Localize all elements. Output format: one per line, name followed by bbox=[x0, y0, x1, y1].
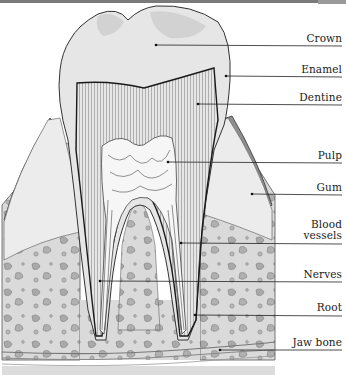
label-pulp: Pulp bbox=[318, 150, 342, 161]
label-vessels: vessels bbox=[303, 230, 342, 241]
label-dentine: Dentine bbox=[299, 92, 342, 103]
label-blood-vessels: Blood vessels bbox=[303, 219, 342, 241]
label-crown: Crown bbox=[306, 33, 342, 44]
label-jaw-bone: Jaw bone bbox=[292, 337, 342, 348]
label-root: Root bbox=[317, 302, 342, 313]
tooth-illustration bbox=[0, 0, 346, 375]
label-nerves: Nerves bbox=[303, 269, 342, 280]
label-gum: Gum bbox=[317, 182, 342, 193]
label-enamel: Enamel bbox=[301, 64, 342, 75]
